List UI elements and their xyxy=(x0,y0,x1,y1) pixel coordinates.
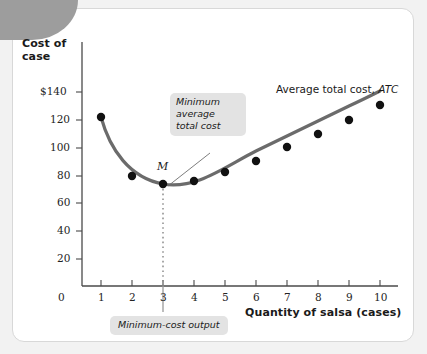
minimum-point-label: M xyxy=(157,161,168,174)
x-tick-label-9: 9 xyxy=(346,291,353,303)
x-tick-marks xyxy=(101,280,380,286)
y-tick-label-40: 40 xyxy=(57,224,70,236)
curve-label-text: Average total cost, xyxy=(276,83,378,95)
data-point-5 xyxy=(221,168,229,176)
y-tick-label-20: 20 xyxy=(57,252,70,264)
minimum-cost-output-callout: Minimum-cost output xyxy=(110,316,228,335)
y-tick-label-80: 80 xyxy=(57,169,70,181)
curve-label-abbrev: ATC xyxy=(378,83,398,95)
curve-label-average-total-cost: Average total cost, ATC xyxy=(276,83,398,95)
data-point-6 xyxy=(252,157,260,165)
data-point-7 xyxy=(283,143,291,151)
x-tick-label-1: 1 xyxy=(98,291,105,303)
y-tick-marks xyxy=(76,92,82,259)
x-tick-label-10: 10 xyxy=(374,291,387,303)
data-point-2 xyxy=(128,172,136,180)
x-tick-label-5: 5 xyxy=(222,291,229,303)
data-point-4 xyxy=(190,177,198,185)
y-axis-title-line1: Cost of xyxy=(22,38,66,51)
x-tick-label-7: 7 xyxy=(284,291,291,303)
figure-root: Cost of case $140 120 100 80 60 40 20 0 … xyxy=(0,0,427,354)
data-point-1 xyxy=(97,113,105,121)
y-axis-title-line2: case xyxy=(22,51,66,64)
y-tick-label-120: 120 xyxy=(50,113,70,125)
y-tick-label-140: $140 xyxy=(40,85,67,97)
x-tick-label-8: 8 xyxy=(315,291,322,303)
x-tick-label-3: 3 xyxy=(160,291,167,303)
data-point-9 xyxy=(345,116,353,124)
y-tick-label-100: 100 xyxy=(50,141,70,153)
data-point-10 xyxy=(376,101,384,109)
x-tick-label-4: 4 xyxy=(191,291,198,303)
x-tick-label-6: 6 xyxy=(253,291,260,303)
x-tick-label-0: 0 xyxy=(58,291,65,303)
data-point-8 xyxy=(314,130,322,138)
x-axis-title: Quantity of salsa (cases) xyxy=(245,307,402,320)
minimum-average-total-cost-callout: Minimum average total cost xyxy=(170,93,246,136)
y-tick-label-60: 60 xyxy=(57,196,70,208)
x-tick-label-2: 2 xyxy=(129,291,136,303)
callout-leader-line xyxy=(168,153,210,186)
y-axis-title: Cost of case xyxy=(22,38,66,63)
data-point-3 xyxy=(159,180,167,188)
